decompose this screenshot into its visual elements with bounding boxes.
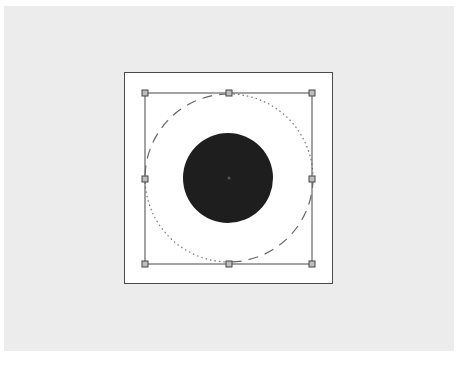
handle-top-center[interactable] xyxy=(226,90,232,96)
handle-top-right[interactable] xyxy=(309,90,315,96)
handle-bottom-center[interactable] xyxy=(226,261,232,267)
handle-middle-right[interactable] xyxy=(309,176,315,182)
handle-middle-left[interactable] xyxy=(142,176,148,182)
center-point-icon xyxy=(228,177,231,180)
drawing-layer xyxy=(0,0,458,366)
handle-bottom-left[interactable] xyxy=(142,261,148,267)
handle-top-left[interactable] xyxy=(142,90,148,96)
handle-bottom-right[interactable] xyxy=(309,261,315,267)
